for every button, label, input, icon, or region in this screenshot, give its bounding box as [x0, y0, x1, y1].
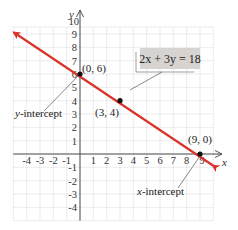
svg-text:7: 7 [171, 155, 176, 166]
x-intercept-label: x-intercept [136, 185, 184, 197]
point-label-9-0: (9, 0) [188, 133, 212, 146]
svg-text:4: 4 [72, 96, 78, 107]
x-tick-labels: -4 -3 -2 -1 1 2 3 4 5 6 7 8 9 [22, 155, 204, 166]
graph-canvas: x y -4 -3 -2 -1 1 2 3 4 5 6 7 8 9 1 2 3 … [0, 0, 238, 230]
svg-text:-2: -2 [49, 155, 58, 166]
svg-text:-1: -1 [68, 162, 77, 173]
svg-text:8: 8 [184, 155, 189, 166]
svg-text:-4: -4 [22, 155, 31, 166]
svg-text:3: 3 [72, 109, 77, 120]
y-tick-labels: 1 2 3 4 5 6 7 8 9 10 -1 -2 -3 -4 [68, 16, 79, 214]
y-intercept-label: y-intercept [14, 107, 62, 119]
svg-text:4: 4 [131, 155, 137, 166]
svg-text:2: 2 [72, 122, 77, 133]
point-label-3-4: (3, 4) [95, 106, 119, 119]
point-3-4 [117, 98, 122, 103]
svg-text:5: 5 [144, 155, 149, 166]
point-9-0 [197, 151, 202, 156]
equation-box: 2x + 3y = 18 [136, 48, 201, 72]
svg-text:8: 8 [72, 42, 77, 53]
svg-text:-3: -3 [68, 189, 77, 200]
equation-label: 2x + 3y = 18 [139, 52, 201, 66]
svg-text:9: 9 [72, 29, 77, 40]
svg-text:5: 5 [72, 82, 77, 93]
x-axis-label: x [221, 156, 227, 168]
svg-text:6: 6 [157, 155, 162, 166]
svg-text:-4: -4 [68, 202, 77, 213]
svg-text:1: 1 [72, 136, 77, 147]
svg-text:10: 10 [69, 16, 80, 27]
svg-text:-2: -2 [68, 176, 77, 187]
svg-text:1: 1 [91, 155, 96, 166]
svg-text:2: 2 [104, 155, 109, 166]
svg-text:3: 3 [117, 155, 122, 166]
point-label-0-6: (0, 6) [82, 62, 106, 75]
svg-text:7: 7 [72, 56, 77, 67]
svg-text:-3: -3 [36, 155, 45, 166]
